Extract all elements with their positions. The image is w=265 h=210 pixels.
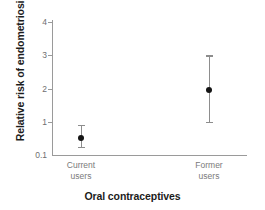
y-tick-label: 0.1	[35, 150, 47, 160]
error-bar-cap-lower	[206, 122, 213, 123]
error-bar-cap-upper	[78, 125, 85, 126]
error-bar-cap-lower	[78, 147, 85, 148]
category-label: Formerusers	[169, 160, 249, 182]
category-label-line: users	[169, 171, 249, 182]
plot-area: 0.11234 CurrentusersFormerusers	[52, 20, 247, 156]
data-point-marker	[78, 135, 84, 141]
y-tick-label: 2	[42, 84, 47, 94]
y-tick-mark	[48, 55, 52, 56]
category-label-line: Former	[169, 160, 249, 171]
error-bar-cap-upper	[206, 55, 213, 56]
y-tick-mark	[48, 22, 52, 23]
y-tick-label: 4	[42, 17, 47, 27]
category-label-line: users	[41, 171, 121, 182]
x-axis-title: Oral contraceptives	[0, 190, 265, 202]
y-axis-line	[52, 20, 53, 156]
category-label: Currentusers	[41, 160, 121, 182]
data-point-marker	[206, 87, 212, 93]
y-axis-title: Relative risk of endometriosis	[14, 0, 26, 143]
category-label-line: Current	[41, 160, 121, 171]
chart-figure: Relative risk of endometriosis 0.11234 C…	[0, 0, 265, 210]
y-tick-mark	[48, 122, 52, 123]
y-tick-label: 3	[42, 50, 47, 60]
y-tick-label: 1	[42, 117, 47, 127]
y-tick-mark	[48, 89, 52, 90]
x-axis-line	[52, 155, 247, 156]
